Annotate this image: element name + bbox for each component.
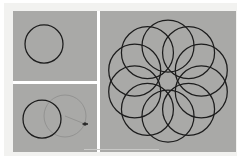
- panel-board: [13, 11, 236, 152]
- circle-shape[interactable]: [23, 100, 61, 138]
- panel-right-canvas[interactable]: [100, 11, 236, 152]
- rosette-circle[interactable]: [163, 27, 215, 79]
- rosette-circle[interactable]: [109, 66, 161, 118]
- rosette-circle[interactable]: [109, 44, 161, 96]
- rosette-circle[interactable]: [142, 20, 194, 72]
- radius-guide-line: [65, 116, 85, 124]
- panel-top-left-canvas[interactable]: [13, 11, 97, 81]
- rosette-group: [109, 20, 228, 142]
- rosette-circle[interactable]: [175, 44, 227, 96]
- panel-top-left[interactable]: [13, 11, 97, 81]
- panel-bottom-left-canvas[interactable]: [13, 84, 97, 152]
- rosette-circle[interactable]: [121, 27, 173, 79]
- circle-shape[interactable]: [25, 25, 63, 63]
- rosette-circle[interactable]: [121, 83, 173, 135]
- rosette-circle[interactable]: [142, 90, 194, 142]
- panel-right[interactable]: [100, 11, 236, 152]
- figure-frame: [4, 3, 237, 156]
- drag-handle-bar-icon[interactable]: [83, 123, 89, 125]
- baseline-tick: [84, 149, 159, 150]
- panel-bottom-left[interactable]: [13, 84, 97, 152]
- screenshot-root: [0, 0, 241, 163]
- rosette-circle[interactable]: [175, 66, 227, 118]
- rosette-circle[interactable]: [163, 83, 215, 135]
